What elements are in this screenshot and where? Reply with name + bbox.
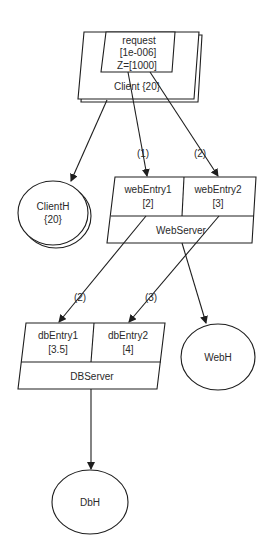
dbh-processor[interactable]: DbH — [52, 470, 128, 534]
call-label-dbentry1: (2) — [74, 292, 86, 303]
alloc-client-to-clienth-arrow — [71, 100, 107, 181]
dbentry2-name: dbEntry2 — [108, 330, 148, 341]
webentry2-name: webEntry2 — [193, 184, 242, 195]
webentry2-service-time: [3] — [212, 198, 223, 209]
lqn-diagram: request [1e-006] Z=[1000] Client {20} Cl… — [0, 0, 271, 559]
request-service-time: [1e-006] — [120, 47, 157, 58]
webh-processor[interactable]: WebH — [181, 324, 255, 390]
call-label-webentry1: (1) — [137, 148, 149, 159]
dbentry1-service-time: [3.5] — [48, 344, 68, 355]
dbentry1-name: dbEntry1 — [38, 330, 78, 341]
client-task[interactable]: request [1e-006] Z=[1000] Client {20} — [78, 32, 202, 102]
request-entry-name: request — [122, 35, 156, 46]
webserver-task[interactable]: webEntry1 [2] webEntry2 [3] WebServer — [107, 177, 256, 243]
call-label-dbentry2: (3) — [145, 292, 157, 303]
webentry1-name: webEntry1 — [123, 184, 172, 195]
clienth-multiplicity: {20} — [44, 214, 62, 225]
dbentry2-service-time: [4] — [122, 344, 133, 355]
dbserver-name: DBServer — [70, 371, 114, 382]
dbserver-task[interactable]: dbEntry1 [3.5] dbEntry2 [4] DBServer — [18, 323, 165, 389]
clienth-name: ClientH — [37, 201, 70, 212]
webentry1-service-time: [2] — [142, 198, 153, 209]
request-think-time: Z=[1000] — [117, 60, 157, 71]
clienth-ellipse — [18, 181, 88, 245]
request-entry[interactable]: request [1e-006] Z=[1000] — [101, 32, 175, 72]
call-label-webentry2: (2) — [194, 148, 206, 159]
webh-name: WebH — [204, 352, 232, 363]
alloc-webserver-to-webh-arrow — [182, 243, 206, 323]
webserver-name: WebServer — [156, 225, 207, 236]
clienth-processor[interactable]: ClientH {20} — [18, 181, 91, 248]
client-task-name: Client {20} — [114, 81, 161, 92]
dbh-name: DbH — [80, 497, 100, 508]
